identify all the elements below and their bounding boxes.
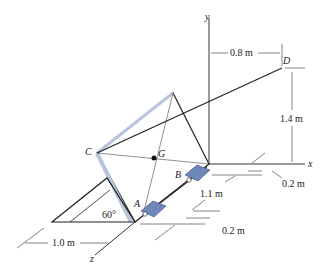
x-axis-label: x — [307, 158, 313, 169]
angle-60: 60° — [102, 209, 116, 220]
point-label-d: D — [282, 55, 291, 66]
dimension-1-1m: 1.1 m — [200, 188, 223, 199]
point-label-c: C — [85, 146, 92, 157]
point-label-g: G — [158, 148, 165, 159]
dimension-1-4m: 1.4 m — [280, 113, 303, 124]
point-label-b: B — [175, 169, 181, 180]
rigid-body-diagram: y x z G C D A B 0.8 m 1.4 m 0.2 m — [0, 0, 331, 273]
y-axis-label: y — [204, 11, 210, 22]
center-of-gravity-point — [152, 156, 157, 161]
dimension-0-2m-bottom: 0.2 m — [222, 225, 245, 236]
dimension-0-2m-right: 0.2 m — [282, 178, 305, 189]
dimension-0-8m: 0.8 m — [230, 47, 253, 58]
z-axis — [95, 222, 135, 255]
point-label-a: A — [133, 198, 141, 209]
dimension-1-0m: 1.0 m — [52, 237, 75, 248]
z-axis-label: z — [89, 253, 94, 264]
